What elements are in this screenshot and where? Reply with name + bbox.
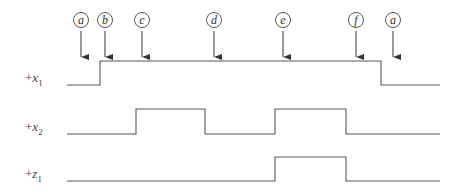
marker-label: c [139,13,145,27]
marker-f: f [349,13,364,58]
marker-e: e [276,13,291,58]
signal-label: +x2 [25,119,43,137]
signal-label: +x1 [25,70,43,88]
signal-waveforms: +x1+x2+z1 [25,61,440,184]
marker-c: c [135,13,150,58]
marker-label: b [102,13,108,27]
timing-diagram-canvas: abcdefa +x1+x2+z1 [0,0,465,195]
signal-x1: +x1 [25,61,440,88]
marker-b: b [98,13,113,58]
marker-label: d [211,13,218,27]
state-markers: abcdefa [74,13,401,58]
marker-a: a [74,13,89,58]
signal-label: +z1 [25,166,42,184]
marker-label: e [280,13,286,27]
marker-label: a [78,13,84,27]
timing-diagram: abcdefa +x1+x2+z1 [0,0,465,195]
waveform [67,61,440,85]
signal-x2: +x2 [25,109,440,137]
waveform [67,157,440,181]
signal-z1: +z1 [25,157,440,184]
marker-d: d [207,13,222,58]
marker-label: a [390,13,396,27]
waveform [67,109,440,134]
marker-label: f [354,13,359,27]
marker-a: a [386,13,401,58]
